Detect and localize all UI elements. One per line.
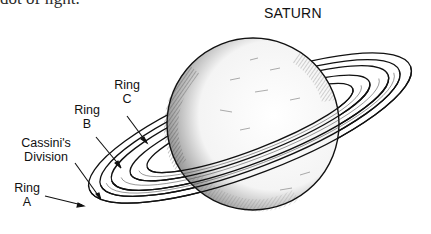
ring-a-leader [45, 196, 82, 205]
label-ring-c: Ring C [110, 78, 144, 106]
label-ring-c-line2: C [110, 92, 144, 106]
label-cassini-line1: Cassini's [16, 136, 76, 150]
label-cassini-line2: Division [16, 150, 76, 164]
label-ring-c-line1: Ring [110, 78, 144, 92]
saturn-illustration [0, 0, 431, 234]
label-ring-b: Ring B [70, 103, 104, 131]
label-ring-b-line1: Ring [70, 103, 104, 117]
label-ring-b-line2: B [70, 117, 104, 131]
label-ring-a-line2: A [10, 195, 44, 209]
label-ring-a-line1: Ring [10, 181, 44, 195]
label-ring-a: Ring A [10, 181, 44, 209]
label-cassini-division: Cassini's Division [16, 136, 76, 164]
